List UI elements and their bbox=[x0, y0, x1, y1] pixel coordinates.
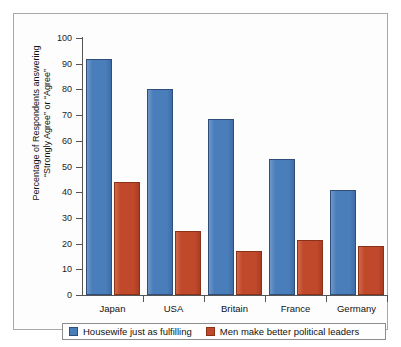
y-tick-label: 30 bbox=[26, 213, 72, 222]
y-tick-label: 50 bbox=[26, 162, 72, 171]
bar-group bbox=[147, 38, 201, 295]
y-tick-label: 0 bbox=[26, 291, 72, 300]
bar[interactable] bbox=[175, 231, 201, 295]
y-tick-label: 10 bbox=[26, 265, 72, 274]
y-axis-title-line2: “Strongly Agree” or “Agree” bbox=[42, 17, 53, 229]
y-tick-label: 80 bbox=[26, 85, 72, 94]
legend-swatch-icon bbox=[206, 327, 215, 336]
plot-area bbox=[82, 38, 387, 295]
bar[interactable] bbox=[208, 119, 234, 295]
bar[interactable] bbox=[147, 89, 173, 295]
x-tick-mark bbox=[387, 296, 388, 302]
bar-group bbox=[86, 38, 140, 295]
figure-frame: Percentage of Respondents answering “Str… bbox=[13, 13, 388, 330]
bar-group bbox=[208, 38, 262, 295]
x-axis-label-germany: Germany bbox=[317, 303, 397, 314]
y-tick-label: 60 bbox=[26, 136, 72, 145]
y-tick-mark bbox=[76, 295, 83, 296]
bar[interactable] bbox=[114, 182, 140, 295]
x-tick-mark bbox=[326, 296, 327, 302]
y-tick-label: 20 bbox=[26, 239, 72, 248]
legend-item[interactable]: Men make better political leaders bbox=[206, 326, 359, 337]
legend-label: Housewife just as fulfilling bbox=[83, 326, 192, 337]
y-tick-label: 40 bbox=[26, 188, 72, 197]
x-tick-mark bbox=[265, 296, 266, 302]
x-tick-mark bbox=[204, 296, 205, 302]
chart-legend: Housewife just as fulfillingMen make bet… bbox=[62, 323, 386, 340]
bar[interactable] bbox=[86, 59, 112, 295]
y-tick-label: 100 bbox=[26, 34, 72, 43]
y-axis-title: Percentage of Respondents answering “Str… bbox=[31, 17, 53, 229]
y-tick-label: 70 bbox=[26, 111, 72, 120]
x-tick-mark bbox=[143, 296, 144, 302]
y-axis-title-line1: Percentage of Respondents answering bbox=[31, 17, 42, 229]
legend-item[interactable]: Housewife just as fulfilling bbox=[69, 326, 192, 337]
y-tick-label: 90 bbox=[26, 59, 72, 68]
bar[interactable] bbox=[358, 246, 384, 295]
bar-group bbox=[330, 38, 384, 295]
bar-group bbox=[269, 38, 323, 295]
bar[interactable] bbox=[269, 159, 295, 295]
bar[interactable] bbox=[236, 251, 262, 295]
legend-label: Men make better political leaders bbox=[220, 326, 359, 337]
bar[interactable] bbox=[297, 240, 323, 295]
legend-swatch-icon bbox=[69, 327, 78, 336]
bar[interactable] bbox=[330, 190, 356, 295]
x-axis-line bbox=[82, 295, 388, 296]
